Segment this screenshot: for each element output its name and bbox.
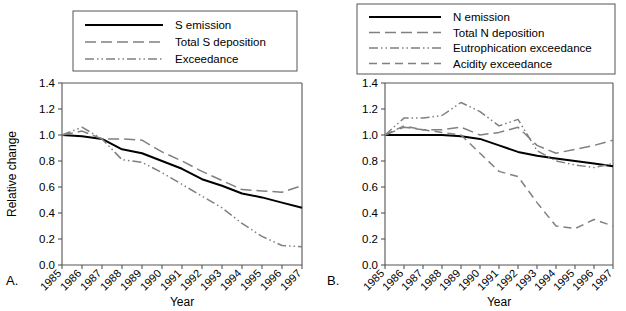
y-tick-label: 1.0 bbox=[39, 129, 55, 141]
x-tick-label: 1991 bbox=[158, 267, 184, 293]
plot-frame bbox=[385, 83, 613, 265]
legend-label-2: Total N deposition bbox=[453, 27, 544, 39]
legend-label-4: Acidity exceedance bbox=[453, 58, 552, 70]
legend-label-1: N emission bbox=[453, 11, 510, 23]
x-tick-label: 1987 bbox=[78, 267, 104, 293]
x-tick-label: 1993 bbox=[198, 267, 224, 293]
x-tick-label: 1990 bbox=[138, 267, 164, 293]
x-axis-title: Year bbox=[487, 295, 511, 309]
y-tick-label: 0.6 bbox=[39, 181, 55, 193]
x-tick-label: 1986 bbox=[380, 267, 406, 293]
y-tick-label: 0.4 bbox=[39, 207, 56, 219]
x-tick-label: 1989 bbox=[437, 267, 463, 293]
x-axis-title: Year bbox=[170, 295, 194, 309]
y-tick-label: 1.2 bbox=[362, 103, 378, 115]
y-tick-label: 0.2 bbox=[39, 233, 55, 245]
x-tick-label: 1997 bbox=[278, 267, 304, 293]
x-tick-label: 1992 bbox=[494, 267, 520, 293]
x-tick-label: 1995 bbox=[238, 267, 264, 293]
x-tick-label: 1990 bbox=[456, 267, 482, 293]
series-line-2 bbox=[62, 131, 302, 192]
series-line-1 bbox=[62, 135, 302, 208]
y-tick-label: 1.0 bbox=[362, 129, 378, 141]
x-tick-label: 1996 bbox=[570, 267, 596, 293]
series-line-1 bbox=[385, 135, 613, 166]
legend-label-2: Total S deposition bbox=[175, 36, 266, 48]
y-tick-label: 0.6 bbox=[362, 181, 378, 193]
x-tick-label: 1989 bbox=[118, 267, 144, 293]
y-tick-label: 0.4 bbox=[362, 207, 379, 219]
x-tick-label: 1988 bbox=[418, 267, 444, 293]
x-tick-label: 1993 bbox=[513, 267, 539, 293]
x-tick-label: 1992 bbox=[178, 267, 204, 293]
y-tick-label: 1.4 bbox=[39, 77, 56, 89]
y-tick-label: 1.2 bbox=[39, 103, 55, 115]
x-tick-label: 1997 bbox=[589, 267, 615, 293]
x-tick-label: 1986 bbox=[58, 267, 84, 293]
panel-b-plot: 0.00.20.40.60.81.01.21.41985198619871988… bbox=[313, 0, 626, 311]
x-tick-label: 1987 bbox=[399, 267, 425, 293]
y-tick-label: 0.8 bbox=[39, 155, 55, 167]
y-axis-title: Relative change bbox=[5, 131, 19, 217]
x-tick-label: 1991 bbox=[475, 267, 501, 293]
legend-label-1: S emission bbox=[175, 19, 231, 31]
series-line-4 bbox=[385, 126, 613, 229]
panel-letter: A. bbox=[6, 273, 18, 288]
x-tick-label: 1994 bbox=[532, 267, 558, 293]
figure-container: 0.00.20.40.60.81.01.21.41985198619871988… bbox=[0, 0, 626, 311]
panel-letter: B. bbox=[327, 273, 339, 288]
x-tick-label: 1996 bbox=[258, 267, 284, 293]
series-line-3 bbox=[62, 127, 302, 247]
y-tick-label: 0.2 bbox=[362, 233, 378, 245]
legend-label-3: Eutrophication exceedance bbox=[453, 42, 592, 54]
panel-b: 0.00.20.40.60.81.01.21.41985198619871988… bbox=[313, 0, 626, 311]
legend-label-3: Exceedance bbox=[175, 53, 238, 65]
panel-a: 0.00.20.40.60.81.01.21.41985198619871988… bbox=[0, 0, 313, 311]
y-tick-label: 1.4 bbox=[362, 77, 379, 89]
panel-a-plot: 0.00.20.40.60.81.01.21.41985198619871988… bbox=[0, 0, 313, 311]
series-line-2 bbox=[385, 127, 613, 153]
x-tick-label: 1988 bbox=[98, 267, 124, 293]
y-tick-label: 0.8 bbox=[362, 155, 378, 167]
x-tick-label: 1995 bbox=[551, 267, 577, 293]
x-tick-label: 1994 bbox=[218, 267, 244, 293]
